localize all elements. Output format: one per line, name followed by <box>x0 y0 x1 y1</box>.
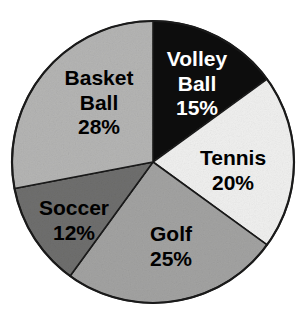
volley-ball-slice-label-value: 15% <box>176 96 218 119</box>
basket-ball-slice-label-value: 28% <box>78 115 120 138</box>
soccer-slice-label-value: 12% <box>53 221 95 244</box>
tennis-slice-label-value: 20% <box>212 171 254 194</box>
basket-ball-slice-label-name-line2: Ball <box>80 91 119 114</box>
volley-ball-slice-label-name-line1: Volley <box>167 47 228 70</box>
soccer-slice-label-name-line1: Soccer <box>39 196 109 219</box>
pie-chart-canvas: VolleyBall15%Tennis20%Golf25%Soccer12%Ba… <box>0 0 305 321</box>
golf-slice-label-name-line1: Golf <box>150 222 193 245</box>
basket-ball-slice-label-name-line1: Basket <box>65 66 134 89</box>
volley-ball-slice-label-name-line2: Ball <box>178 72 217 95</box>
tennis-slice-label-name-line1: Tennis <box>200 146 266 169</box>
golf-slice-label-value: 25% <box>150 247 192 270</box>
pie-chart-figure: VolleyBall15%Tennis20%Golf25%Soccer12%Ba… <box>0 0 305 321</box>
